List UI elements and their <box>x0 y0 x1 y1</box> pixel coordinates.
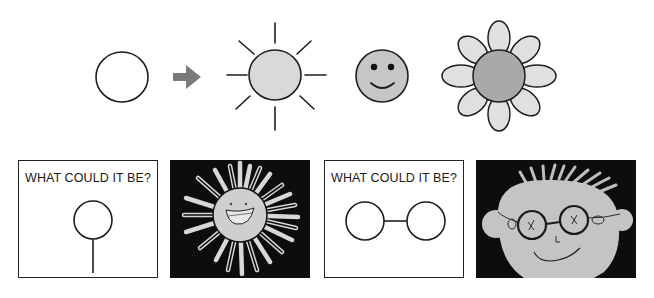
drawn-face-icon <box>476 160 636 278</box>
prompt-card-1: WHAT COULD IT BE? <box>18 160 158 278</box>
sun-icon <box>227 23 326 130</box>
child-drawing-face <box>476 160 636 278</box>
plain-circle-icon <box>96 52 148 102</box>
two-circles-icon <box>325 161 465 279</box>
child-drawing-sun <box>170 160 310 278</box>
drawn-sun-icon <box>170 160 310 278</box>
top-row-diagram <box>0 0 654 150</box>
circle-on-stick-icon <box>19 161 159 279</box>
arrow-right-icon <box>173 65 201 89</box>
prompt-card-2: WHAT COULD IT BE? <box>324 160 464 278</box>
smiley-face-icon <box>356 50 408 102</box>
flower-icon <box>442 21 556 131</box>
